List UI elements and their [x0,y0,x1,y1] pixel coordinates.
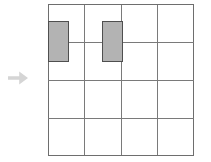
grid-figure [48,4,194,156]
shaded-block-left [49,22,69,62]
right-arrow-icon [6,67,30,89]
grid-svg [48,4,194,156]
right-arrow-shape [8,72,28,85]
diagram-canvas [0,0,211,162]
shaded-block-right [103,22,123,62]
